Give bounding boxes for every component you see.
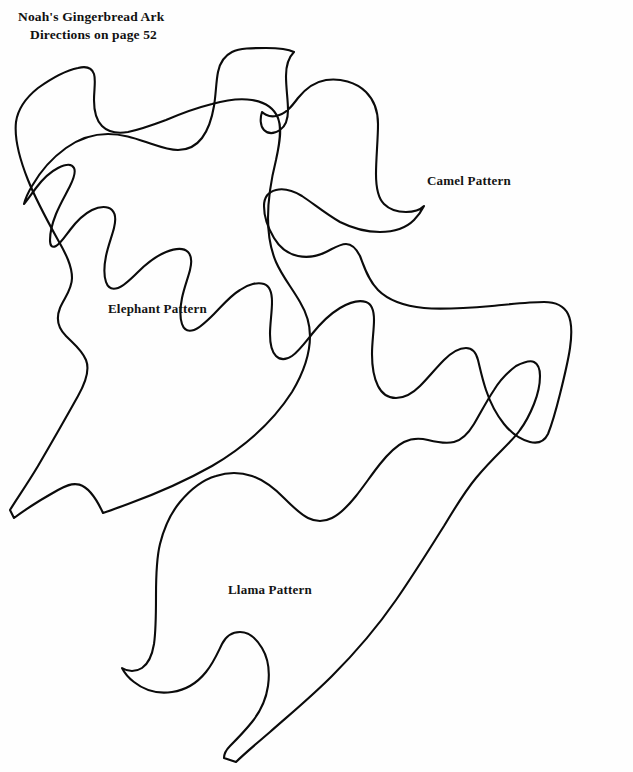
pattern-page: Noah's Gingerbread Ark Directions on pag…: [0, 0, 633, 772]
heading-subtitle: Directions on page 52: [18, 26, 298, 44]
llama-pattern-label: Llama Pattern: [228, 582, 312, 598]
camel-pattern-label: Camel Pattern: [427, 173, 511, 189]
heading-title: Noah's Gingerbread Ark: [18, 8, 298, 26]
llama-pattern-outline: [122, 361, 540, 762]
sheet-heading: Noah's Gingerbread Ark Directions on pag…: [18, 8, 298, 44]
elephant-pattern-outline: [10, 67, 310, 518]
pattern-outlines-canvas: [0, 0, 633, 772]
elephant-pattern-label: Elephant Pattern: [108, 301, 207, 317]
